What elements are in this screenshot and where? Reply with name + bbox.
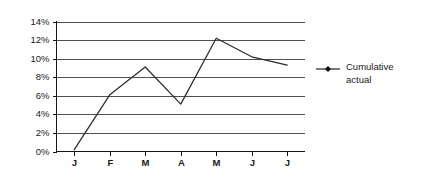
- x-axis-tick-label: F: [108, 157, 114, 168]
- y-axis-tick-label: 0%: [36, 146, 50, 157]
- chart-background: [0, 0, 423, 185]
- chart-container: 0%2%4%6%8%10%12%14% JFMAMJJ Cumulative a…: [0, 0, 423, 185]
- legend-label-line-2: actual: [346, 74, 371, 85]
- y-axis-tick-label: 2%: [36, 127, 50, 138]
- line-chart: 0%2%4%6%8%10%12%14% JFMAMJJ Cumulative a…: [0, 0, 423, 185]
- x-axis-tick-label: M: [142, 157, 150, 168]
- y-axis-tick-label: 14%: [30, 16, 50, 27]
- y-axis-tick-label: 12%: [30, 34, 50, 45]
- legend-label-line-1: Cumulative: [346, 61, 394, 72]
- x-axis-tick-label: J: [72, 157, 77, 168]
- x-axis-tick-label: A: [178, 157, 185, 168]
- x-axis-tick-label: M: [213, 157, 221, 168]
- x-axis-tick-label: J: [250, 157, 255, 168]
- x-axis-tick-label: J: [285, 157, 290, 168]
- y-axis-tick-label: 4%: [36, 108, 50, 119]
- y-axis-tick-label: 8%: [36, 71, 50, 82]
- y-axis-tick-label: 10%: [30, 53, 50, 64]
- y-axis-tick-label: 6%: [36, 90, 50, 101]
